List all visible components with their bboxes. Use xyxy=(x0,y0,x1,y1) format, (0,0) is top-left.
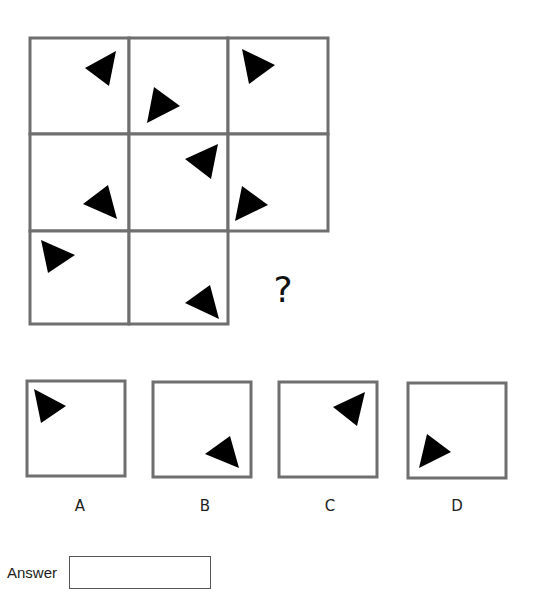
grid-cell xyxy=(228,38,328,134)
answer-options: ABCD xyxy=(27,381,506,515)
option-label: C xyxy=(325,497,335,515)
option-label: A xyxy=(75,497,86,515)
grid-cell xyxy=(129,38,228,134)
grid-cell xyxy=(30,134,129,231)
option-b[interactable]: B xyxy=(153,382,251,515)
grid-cell xyxy=(228,134,328,231)
option-a[interactable]: A xyxy=(27,381,125,515)
missing-cell-question-mark: ? xyxy=(273,269,292,310)
grid-cell xyxy=(30,231,129,324)
cell-border xyxy=(129,38,228,134)
puzzle-canvas: ? ABCD xyxy=(0,0,535,610)
option-d[interactable]: D xyxy=(408,383,506,515)
option-c[interactable]: C xyxy=(279,382,377,515)
option-label: D xyxy=(451,497,463,515)
answer-input[interactable] xyxy=(69,556,211,589)
grid-cell xyxy=(30,38,129,134)
grid-cell xyxy=(129,134,228,231)
option-label: B xyxy=(200,497,210,515)
answer-label: Answer xyxy=(7,564,57,581)
grid-cell xyxy=(129,231,228,324)
